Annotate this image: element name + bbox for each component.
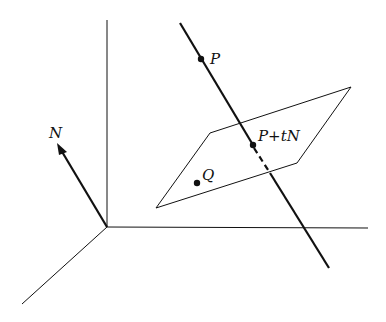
line-lower-segment <box>270 173 329 268</box>
point-projection-label: P+tN <box>257 127 301 145</box>
point-p-label: P <box>209 50 221 68</box>
line-upper-segment <box>180 23 253 145</box>
depth-axis <box>22 227 107 304</box>
point-q-label: Q <box>202 166 214 184</box>
normal-label: N <box>48 124 63 142</box>
point-p: P <box>198 50 221 68</box>
arrowhead-icon <box>57 143 67 155</box>
horizontal-axis <box>107 227 368 228</box>
diagram-canvas: N P P+tN Q <box>0 0 386 322</box>
normal-vector: N <box>48 124 107 227</box>
